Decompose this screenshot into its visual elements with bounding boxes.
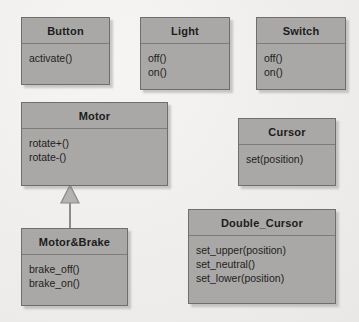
- class-box-light[interactable]: Light off() on(): [140, 17, 230, 90]
- operation-item: set_upper(position): [196, 243, 328, 257]
- operations-compartment-button: activate(): [22, 44, 109, 84]
- class-box-button[interactable]: Button activate(): [21, 17, 110, 85]
- operations-compartment-cursor: set(position): [239, 145, 335, 185]
- operations-compartment-motor: rotate+() rotate-(): [22, 129, 167, 185]
- diagram-canvas: Button activate() Light off() on() Switc…: [0, 0, 359, 322]
- operations-compartment-double-cursor: set_upper(position) set_neutral() set_lo…: [189, 236, 335, 303]
- class-box-motor[interactable]: Motor rotate+() rotate-(): [21, 102, 168, 186]
- operation-item: off(): [148, 51, 222, 65]
- operations-compartment-switch: off() on(): [257, 44, 345, 89]
- class-box-double-cursor[interactable]: Double_Cursor set_upper(position) set_ne…: [188, 209, 336, 304]
- operation-item: rotate-(): [29, 150, 160, 164]
- operation-item: on(): [148, 65, 222, 79]
- operation-item: set_neutral(): [196, 257, 328, 271]
- operation-item: brake_on(): [29, 276, 120, 290]
- operations-compartment-light: off() on(): [141, 44, 229, 89]
- operation-item: activate(): [29, 51, 102, 65]
- class-name-cursor: Cursor: [239, 119, 335, 145]
- class-name-motor-and-brake: Motor&Brake: [22, 229, 127, 255]
- operation-item: rotate+(): [29, 136, 160, 150]
- generalization-motorbrake-to-motor: [55, 183, 85, 231]
- operation-item: set_lower(position): [196, 271, 328, 285]
- hollow-triangle-arrowhead: [61, 185, 79, 203]
- class-name-switch: Switch: [257, 18, 345, 44]
- operation-item: off(): [264, 51, 338, 65]
- operations-compartment-motor-and-brake: brake_off() brake_on(): [22, 255, 127, 305]
- class-box-cursor[interactable]: Cursor set(position): [238, 118, 336, 186]
- class-name-button: Button: [22, 18, 109, 44]
- class-box-switch[interactable]: Switch off() on(): [256, 17, 346, 90]
- class-name-double-cursor: Double_Cursor: [189, 210, 335, 236]
- operation-item: on(): [264, 65, 338, 79]
- class-name-motor: Motor: [22, 103, 167, 129]
- operation-item: set(position): [246, 152, 328, 166]
- operation-item: brake_off(): [29, 262, 120, 276]
- class-box-motor-and-brake[interactable]: Motor&Brake brake_off() brake_on(): [21, 228, 128, 306]
- class-name-light: Light: [141, 18, 229, 44]
